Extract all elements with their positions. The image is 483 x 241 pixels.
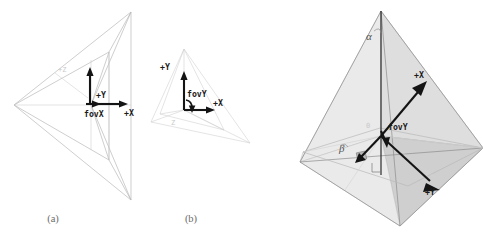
panel-a-x-arrowhead xyxy=(119,100,128,107)
panel-a-outer-frustum xyxy=(14,12,131,200)
panel-b-fov-label: fovY xyxy=(187,89,207,99)
panel-c-alpha-label: α xyxy=(366,30,372,42)
panel-c-fov-label: fovY xyxy=(388,122,408,132)
figure-svg: +Z +Y +X fovX (a) xyxy=(0,0,483,241)
panel-a-z-hint-line xyxy=(55,73,88,98)
figure-container: +Z +Y +X fovX (a) xyxy=(0,0,483,241)
panel-a-fov-label: fovX xyxy=(84,109,104,119)
panel-a-axis-x xyxy=(97,100,128,107)
panel-a-caption: (a) xyxy=(47,213,59,225)
panel-a-axis-x-label: +X xyxy=(124,108,134,118)
panel-a-diagram: +Z +Y +X fovX (a) xyxy=(14,12,134,225)
panel-b-edge-left xyxy=(151,110,184,122)
panel-b-axis-x-label: +X xyxy=(213,98,223,108)
panel-b-axis-z-label: Z xyxy=(171,119,175,127)
panel-c-diagram: α β +X +Y fovY 0 xyxy=(300,11,483,226)
panel-a-axis-z-label: +Z xyxy=(58,66,66,74)
panel-b-caption: (b) xyxy=(185,213,198,225)
outer-pyramid-outline xyxy=(14,12,131,200)
panel-b-diagram: +Y +X fovY Z (b) xyxy=(151,49,250,225)
panel-a-y-arrowhead xyxy=(86,67,93,76)
panel-c-beta-label: β xyxy=(338,142,345,154)
outer-edge-bottom-center xyxy=(91,105,131,200)
panel-b-edge-inner-left xyxy=(160,110,184,114)
panel-b-edge-inner-right xyxy=(184,110,224,130)
panel-a-axis-y-label: +Y xyxy=(96,90,106,100)
panel-b-y-arrowhead xyxy=(180,71,187,80)
panel-b-axis-y-label: +Y xyxy=(160,62,170,72)
panel-a-axis-y xyxy=(86,67,93,105)
panel-c-axis-y-label: +Y xyxy=(425,187,435,197)
panel-c-origin-label: 0 xyxy=(366,122,370,130)
outer-inner-edge-top xyxy=(109,12,131,52)
outer-inner-edge-bottom xyxy=(109,160,131,200)
panel-c-axis-x-label: +X xyxy=(414,70,424,80)
